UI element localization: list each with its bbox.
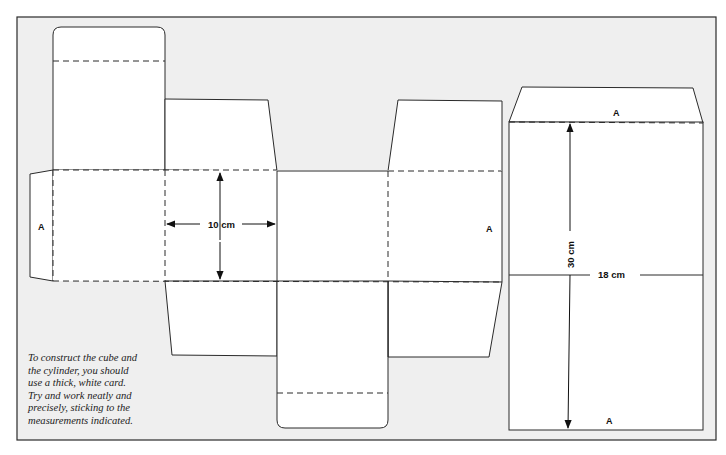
cylinder-top-flap: [509, 87, 703, 123]
cube-glue-label-left: A: [38, 222, 45, 232]
cylinder-bottom-label: A: [606, 416, 613, 426]
caption-line: measurements indicated.: [28, 415, 178, 428]
cube-flap-top-2: [165, 99, 277, 171]
cube-flap-top-4: [388, 100, 502, 171]
caption-line: precisely, sticking to the: [28, 402, 178, 415]
diagram-canvas: A A 10 cm A A 18 cm 30 cm To construct t…: [0, 0, 726, 455]
cylinder-net: [509, 87, 703, 430]
cylinder-height-dimension: 30 cm: [565, 241, 576, 268]
cube-glue-label-right: A: [486, 224, 493, 234]
caption-line: the cylinder, you should: [28, 365, 178, 378]
cube-bottom-tab: [277, 281, 388, 428]
cylinder-top-label: A: [613, 108, 620, 118]
cube-top-tab: [53, 27, 165, 170]
cube-flap-bottom-2: [165, 281, 277, 356]
caption-line: To construct the cube and: [28, 352, 178, 365]
cube-width-dimension: 10 cm: [208, 219, 235, 230]
caption-line: Try and work neatly and: [28, 390, 178, 403]
cylinder-width-dimension: 18 cm: [598, 269, 625, 280]
cube-flap-bottom-4: [388, 281, 502, 357]
instructions-caption: To construct the cube and the cylinder, …: [28, 352, 178, 428]
caption-line: use a thick, white card.: [28, 377, 178, 390]
